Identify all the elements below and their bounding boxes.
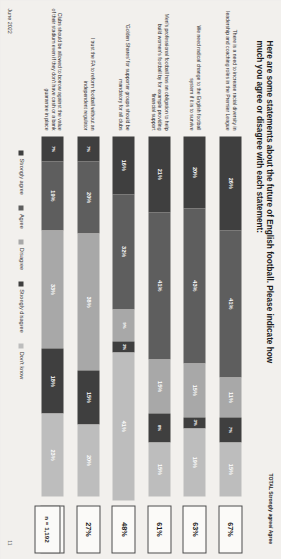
legend-label: Agree bbox=[18, 213, 24, 228]
bar-segment-agree: 32% bbox=[113, 194, 135, 309]
bar-segment-strongly-disagree: 15% bbox=[77, 370, 99, 424]
statement-label: Men's professional football has an oblig… bbox=[149, 8, 169, 136]
bar-segment-disagree: 38% bbox=[77, 233, 99, 370]
bar-segment-strongly-disagree: 8% bbox=[148, 413, 170, 442]
stacked-bar: 7%20%38%15%20% bbox=[77, 136, 99, 496]
stacked-bar-chart: There is a need to increase racial diver… bbox=[32, 8, 245, 553]
statement-label: There is a need to increase racial diver… bbox=[223, 8, 236, 136]
stacked-bar: 26%41%11%7%15% bbox=[219, 136, 241, 496]
bar-segment-strongly-agree: 16% bbox=[113, 136, 135, 194]
sample-size-box: n = 1,192 bbox=[34, 505, 60, 553]
bar-segment-disagree: 15% bbox=[184, 363, 206, 417]
bar-segment-disagree: 15% bbox=[148, 359, 170, 413]
legend-item: Agree bbox=[18, 205, 24, 228]
bar-segment-strongly-disagree: 7% bbox=[219, 417, 241, 442]
legend-label: Disagree bbox=[18, 247, 24, 269]
total-agree-value: 67% bbox=[218, 505, 242, 553]
total-column-header: TOTAL Strongly agree/ Agree bbox=[267, 473, 273, 551]
bar-segment-don-t-know: 19% bbox=[184, 428, 206, 496]
statement-label: I trust the FA to reform football withou… bbox=[81, 8, 94, 136]
total-agree-value: 61% bbox=[147, 505, 171, 553]
bar-segment-don-t-know: 15% bbox=[148, 442, 170, 496]
legend-swatch-icon bbox=[19, 205, 24, 210]
legend-swatch-icon bbox=[19, 281, 24, 286]
bar-segment-don-t-know: 41% bbox=[113, 352, 135, 500]
statement-label: 'Golden Shares' for supporter groups sho… bbox=[117, 8, 130, 136]
page-number: 11 bbox=[6, 540, 12, 545]
total-agree-value: 63% bbox=[183, 505, 207, 553]
legend-label: Don't know bbox=[18, 351, 24, 379]
footer-date: June 2022 bbox=[6, 8, 12, 33]
bar-segment-disagree: 33% bbox=[42, 230, 64, 349]
bar-segment-strongly-disagree: 18% bbox=[42, 348, 64, 413]
stacked-bar: 7%19%33%18%23% bbox=[42, 136, 64, 496]
chart-row: Men's professional football has an oblig… bbox=[144, 8, 174, 553]
bar-segment-strongly-agree: 21% bbox=[148, 136, 170, 212]
chart-row: There is a need to increase racial diver… bbox=[215, 8, 245, 553]
chart-row: We need radical change to the English fo… bbox=[180, 8, 210, 553]
bar-segment-don-t-know: 20% bbox=[77, 424, 99, 496]
legend-label: Strongly agree bbox=[18, 158, 24, 194]
legend-swatch-icon bbox=[19, 343, 24, 348]
stacked-bar: 16%32%9%3%41% bbox=[113, 136, 135, 496]
total-agree-value: 48% bbox=[112, 505, 136, 553]
bar-segment-strongly-agree: 7% bbox=[77, 136, 99, 161]
bar-segment-agree: 41% bbox=[148, 212, 170, 360]
chart-row: 'Golden Shares' for supporter groups sho… bbox=[109, 8, 139, 553]
legend-item: Strongly agree bbox=[18, 150, 24, 194]
bar-segment-strongly-agree: 20% bbox=[184, 136, 206, 208]
legend-swatch-icon bbox=[19, 150, 24, 155]
chart-row: Clubs should be allowed to borrow agains… bbox=[38, 8, 68, 553]
legend-item: Strongly disagree bbox=[18, 281, 24, 333]
page-title: Here are some statements about the futur… bbox=[253, 40, 274, 370]
legend-label: Strongly disagree bbox=[18, 289, 24, 333]
statement-label: We need radical change to the English fo… bbox=[188, 8, 201, 136]
bar-segment-strongly-disagree: 3% bbox=[184, 417, 206, 428]
slide-viewport: Here are some statements about the futur… bbox=[0, 0, 281, 559]
statement-label: Clubs should be allowed to borrow agains… bbox=[43, 8, 63, 136]
chart-legend: Strongly agreeAgreeDisagreeStrongly disa… bbox=[18, 150, 24, 379]
bar-segment-disagree: 11% bbox=[219, 377, 241, 417]
total-agree-value: 27% bbox=[76, 505, 100, 553]
bar-segment-strongly-disagree: 3% bbox=[113, 341, 135, 352]
bar-segment-strongly-agree: 7% bbox=[42, 136, 64, 161]
legend-item: Don't know bbox=[18, 343, 24, 379]
bar-segment-agree: 43% bbox=[184, 208, 206, 363]
legend-item: Disagree bbox=[18, 239, 24, 269]
bar-segment-strongly-agree: 26% bbox=[219, 136, 241, 230]
bar-segment-agree: 41% bbox=[219, 230, 241, 378]
legend-swatch-icon bbox=[19, 239, 24, 244]
bar-segment-disagree: 9% bbox=[113, 309, 135, 341]
bar-segment-don-t-know: 23% bbox=[42, 413, 64, 496]
bar-segment-agree: 19% bbox=[42, 161, 64, 229]
survey-results-slide: Here are some statements about the futur… bbox=[0, 0, 281, 559]
stacked-bar: 20%43%15%3%19% bbox=[184, 136, 206, 496]
chart-row: I trust the FA to reform football withou… bbox=[73, 8, 103, 553]
bar-segment-don-t-know: 15% bbox=[219, 442, 241, 496]
bar-segment-agree: 20% bbox=[77, 161, 99, 233]
stacked-bar: 21%41%15%8%15% bbox=[148, 136, 170, 496]
